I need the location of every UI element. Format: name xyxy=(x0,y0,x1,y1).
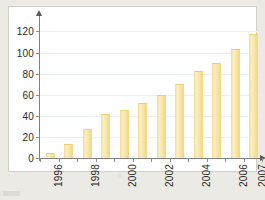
x-tick-label: 2002 xyxy=(164,164,175,187)
gridline xyxy=(40,74,262,75)
x-tick-label: 1998 xyxy=(90,164,101,187)
x-tick-mark xyxy=(96,158,97,162)
bar xyxy=(46,153,55,158)
x-tick-label: 2004 xyxy=(201,164,212,187)
bar xyxy=(157,95,166,158)
y-tick-mark xyxy=(36,74,40,75)
gridline xyxy=(40,31,262,32)
y-tick-mark xyxy=(36,116,40,117)
gridline xyxy=(40,95,262,96)
x-tick-label: 2006 xyxy=(238,164,249,187)
y-tick-mark xyxy=(36,31,40,32)
y-tick-label: 40 xyxy=(22,110,34,121)
x-tick-mark xyxy=(262,158,263,162)
scan-artifact xyxy=(3,191,20,196)
x-tick-mark xyxy=(77,158,78,162)
bar xyxy=(83,129,92,158)
x-tick-mark xyxy=(207,158,208,162)
bar xyxy=(175,84,184,158)
x-tick-mark xyxy=(170,158,171,162)
x-tick-label: 2000 xyxy=(127,164,138,187)
y-tick-mark xyxy=(36,95,40,96)
gridline xyxy=(40,53,262,54)
y-axis-arrow-icon xyxy=(36,10,42,16)
y-tick-label: 20 xyxy=(22,131,34,142)
bar-chart: 020406080100120 199619982000200220042006… xyxy=(0,0,265,200)
x-tick-mark xyxy=(151,158,152,162)
y-tick-mark xyxy=(36,53,40,54)
x-axis-line xyxy=(39,158,261,159)
x-tick-mark xyxy=(133,158,134,162)
plot-frame: 020406080100120 199619982000200220042006… xyxy=(8,6,257,172)
bar xyxy=(249,34,258,158)
x-tick-mark xyxy=(244,158,245,162)
y-tick-label: 0 xyxy=(28,153,34,164)
x-tick-mark xyxy=(188,158,189,162)
x-tick-label: 2007 xyxy=(257,164,265,187)
x-tick-mark xyxy=(59,158,60,162)
x-tick-mark xyxy=(40,158,41,162)
gridline xyxy=(40,116,262,117)
x-tick-label: 1996 xyxy=(53,164,64,187)
bar xyxy=(138,103,147,158)
bar xyxy=(194,71,203,158)
bar xyxy=(231,49,240,158)
y-tick-label: 80 xyxy=(22,68,34,79)
y-tick-label: 60 xyxy=(22,89,34,100)
x-tick-mark xyxy=(225,158,226,162)
y-tick-label: 100 xyxy=(17,47,34,58)
bar xyxy=(101,114,110,158)
y-tick-mark xyxy=(36,137,40,138)
bar xyxy=(212,63,221,158)
gridline xyxy=(40,137,262,138)
plot-area: 020406080100120 xyxy=(40,23,262,158)
y-tick-label: 120 xyxy=(17,26,34,37)
x-tick-mark xyxy=(114,158,115,162)
bar xyxy=(120,110,129,158)
bar xyxy=(64,144,73,158)
